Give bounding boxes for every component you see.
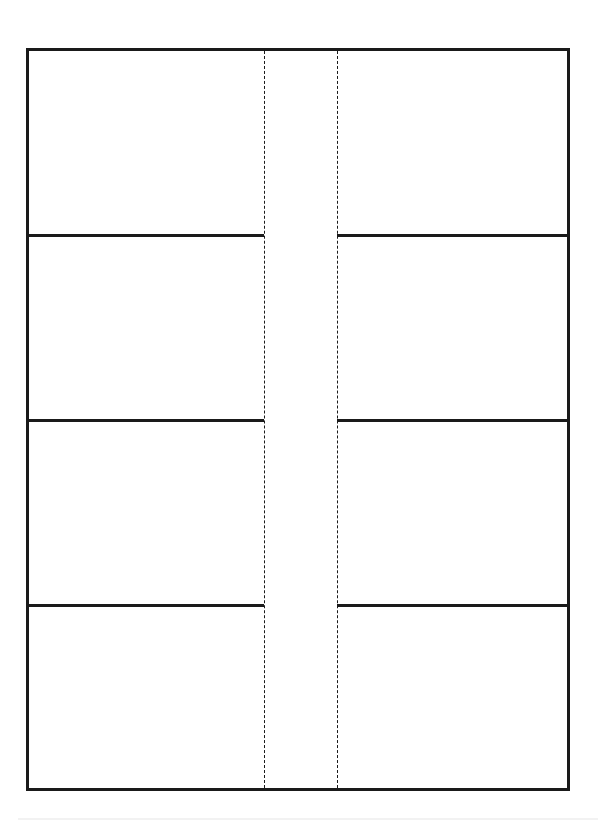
gutter-dashed-line-left <box>264 51 265 788</box>
label-cell-r1-left <box>29 51 264 234</box>
label-cell-r3-right <box>338 422 567 604</box>
label-cell-r4-left <box>29 607 264 788</box>
label-cell-r3-left <box>29 422 264 604</box>
label-cell-r1-right <box>338 51 567 234</box>
label-cell-r2-right <box>338 237 567 419</box>
label-cell-r4-right <box>338 607 567 788</box>
label-cell-r2-left <box>29 237 264 419</box>
scan-artifact-line <box>18 818 598 820</box>
